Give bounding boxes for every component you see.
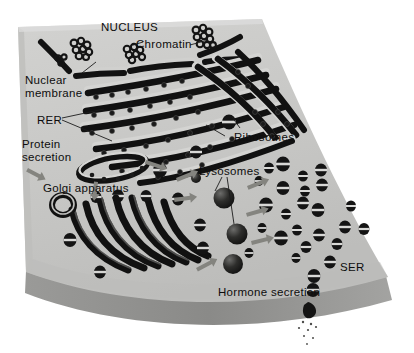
ser-tubule xyxy=(301,241,312,253)
ribosome-bump xyxy=(178,170,183,175)
golgi-vesicle xyxy=(141,190,152,202)
ribosome-bump xyxy=(276,110,281,115)
ser-tubule xyxy=(316,179,328,192)
ser-tubule xyxy=(245,248,254,258)
ser-tubule xyxy=(332,238,343,250)
ribosome-bump xyxy=(162,83,167,88)
ribosome-bump xyxy=(174,116,179,121)
ser-tubule xyxy=(313,229,325,242)
label-lysosomes: Lysosomes xyxy=(199,165,259,178)
ser-tubule xyxy=(258,223,267,233)
ribosome-bump xyxy=(94,95,99,100)
ribosome-bump xyxy=(110,111,115,116)
ribosome-bump xyxy=(186,153,191,158)
label-protein-secretion-line1: Protein xyxy=(22,138,61,151)
transport-vesicle xyxy=(64,233,77,247)
ser-tubule xyxy=(277,181,290,195)
lysosome-sphere xyxy=(227,224,248,245)
ribosome-bump xyxy=(285,122,290,127)
ser-tubule xyxy=(274,231,288,246)
ribosome-bump xyxy=(164,160,169,165)
ser-tubule xyxy=(276,157,290,172)
ribosome-bump xyxy=(128,108,133,113)
ribosome-bump xyxy=(152,122,157,127)
ser-tubule xyxy=(339,221,351,234)
ser-tubule xyxy=(297,197,309,210)
ribosome-bump xyxy=(261,122,266,127)
lysosome-sphere xyxy=(223,254,243,274)
ribosome-bump xyxy=(130,126,135,131)
transport-vesicle xyxy=(222,115,236,130)
ser-tubule xyxy=(300,186,310,197)
ribosome-bump xyxy=(126,90,131,95)
label-nuclear-membrane-line1: Nuclear xyxy=(25,74,67,87)
label-ribosomes: Ribosomes xyxy=(234,131,294,144)
cell-diagram-figure: NUCLEUS Chromatin Nuclear membrane RER P… xyxy=(0,0,414,353)
ribosome-bump xyxy=(92,113,97,118)
golgi-vesicle xyxy=(197,242,209,255)
ser-tubule xyxy=(346,201,356,212)
ser-tubule xyxy=(308,269,321,283)
label-nucleus: NUCLEUS xyxy=(101,21,158,34)
ribosome-bump xyxy=(166,138,171,143)
ribosome-bump xyxy=(208,145,213,150)
ribosome-bump xyxy=(110,93,115,98)
ser-tubule xyxy=(298,171,308,182)
ser-tubule xyxy=(292,225,302,236)
ribosome-bump xyxy=(144,87,149,92)
ribosome-bump xyxy=(253,110,258,115)
label-chromatin: Chromatin xyxy=(136,38,192,51)
ser-tubule xyxy=(281,209,291,220)
label-rer: RER xyxy=(37,114,62,127)
nuclear-membrane-segment xyxy=(76,73,124,76)
label-ser: SER xyxy=(340,261,365,274)
golgi-vesicle xyxy=(194,219,206,232)
secreted-granules xyxy=(298,321,317,345)
ser-tubule xyxy=(264,163,274,174)
ribosome-bump xyxy=(236,70,241,75)
ribosome-bump xyxy=(188,95,193,100)
ribosome-bump xyxy=(196,110,201,115)
ribosome-bump xyxy=(168,100,173,105)
ser-tubule xyxy=(315,164,327,177)
ribosome-bump xyxy=(188,131,193,136)
golgi-vesicle xyxy=(94,266,106,279)
ser-tubule xyxy=(359,223,370,235)
label-hormone-secretion: Hormone secretion xyxy=(218,286,320,299)
ribosome-bump xyxy=(180,79,185,84)
ser-tubule xyxy=(292,253,301,263)
label-golgi-apparatus: Golgi apparatus xyxy=(43,182,129,195)
ribosome-bump xyxy=(246,84,251,89)
ser-tubule xyxy=(324,256,336,269)
transport-vesicle xyxy=(190,146,202,159)
label-nuclear-membrane-line2: membrane xyxy=(25,87,82,100)
ribosome-bump xyxy=(144,144,149,149)
ribosome-bump xyxy=(148,104,153,109)
ribosome-bump xyxy=(110,129,115,134)
ser-tubule xyxy=(312,203,325,217)
label-protein-secretion-line2: secretion xyxy=(22,151,71,164)
